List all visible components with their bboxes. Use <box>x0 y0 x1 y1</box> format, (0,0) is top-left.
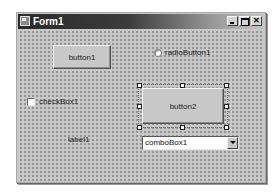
resize-handle-right[interactable] <box>224 104 229 109</box>
close-icon: ✕ <box>252 17 261 25</box>
combo-box1[interactable]: comboBox1 <box>142 136 239 150</box>
chevron-down-icon[interactable] <box>227 137 238 149</box>
button1[interactable]: button1 <box>53 45 111 69</box>
form-window: Form1 ✕ button1 radioButton1 checkBox1 b… <box>16 12 266 183</box>
radio-circle-icon[interactable] <box>154 49 162 57</box>
maximize-icon <box>241 18 249 26</box>
label1[interactable]: label1 <box>68 135 89 144</box>
checkbox-square-icon[interactable] <box>27 98 35 106</box>
combo-box1-value: comboBox1 <box>145 138 187 148</box>
form-design-surface[interactable]: button1 radioButton1 checkBox1 button2 l… <box>18 29 264 181</box>
resize-handle-top[interactable] <box>180 83 185 88</box>
minimize-button[interactable] <box>227 16 238 26</box>
minimize-icon <box>230 22 234 24</box>
radio-button1[interactable]: radioButton1 <box>154 48 210 57</box>
button2[interactable]: button2 <box>142 88 224 124</box>
resize-handle-left[interactable] <box>137 104 142 109</box>
close-button[interactable]: ✕ <box>251 16 262 26</box>
check-box1[interactable]: checkBox1 <box>27 97 78 106</box>
resize-handle-top-right[interactable] <box>224 83 229 88</box>
check-box1-label: checkBox1 <box>39 97 78 106</box>
resize-handle-bottom-right[interactable] <box>224 125 229 130</box>
resize-handle-bottom[interactable] <box>180 125 185 130</box>
resize-handle-bottom-left[interactable] <box>137 125 142 130</box>
window-title: Form1 <box>33 15 64 28</box>
radio-button1-label: radioButton1 <box>165 48 210 57</box>
resize-handle-top-left[interactable] <box>137 83 142 88</box>
button2-label: button2 <box>170 102 197 111</box>
title-bar[interactable]: Form1 ✕ <box>18 14 264 29</box>
button1-label: button1 <box>69 53 96 62</box>
form-icon <box>20 16 30 26</box>
maximize-button[interactable] <box>239 16 250 26</box>
